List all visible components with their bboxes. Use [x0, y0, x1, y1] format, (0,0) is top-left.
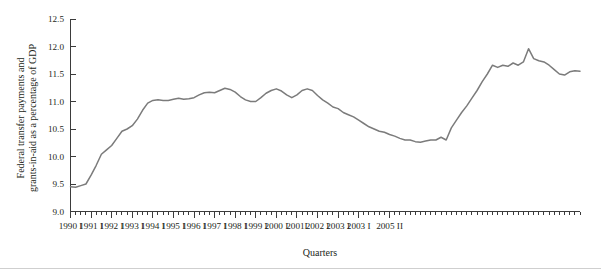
y-axis-tick-labels: 9.09.510.010.511.011.512.012.5: [48, 14, 64, 217]
x-axis-tick-label: 2001I: [286, 221, 307, 231]
x-axis-tick-label: 2000 I: [264, 221, 288, 231]
x-axis-tick-label: 2003 I: [347, 221, 371, 231]
y-axis-tick-label: 10.5: [48, 124, 64, 134]
y-axis-tick-label: 9.0: [53, 207, 65, 217]
x-axis-tick-labels: 1990 I1991 I1992 I1993 I1994 I1995 I1996…: [59, 221, 403, 231]
chart-figure: Federal transfer payments and grants-in-…: [0, 0, 601, 273]
y-axis-title-line1: Federal transfer payments and: [15, 58, 26, 179]
y-axis-tick-label: 10.0: [48, 152, 64, 162]
y-axis-tick-label: 11.5: [48, 69, 64, 79]
series-line-federal-transfer-payments: [71, 49, 581, 188]
y-axis-tick-label: 11.0: [48, 97, 64, 107]
x-axis-tick-marks: [71, 212, 581, 218]
x-axis-tick-label: 2005 II: [376, 221, 403, 231]
line-chart: Federal transfer payments and grants-in-…: [0, 0, 601, 273]
y-axis-tick-label: 12.0: [48, 42, 64, 52]
x-axis-title: Quarters: [303, 247, 338, 258]
y-axis-title-line2: grants-in-aid as a percentage of GDP: [27, 44, 38, 192]
y-axis-tick-label: 12.5: [48, 14, 64, 24]
footer-divider: [0, 268, 601, 269]
y-axis-tick-label: 9.5: [53, 179, 65, 189]
y-axis-tick-marks: [71, 19, 76, 212]
y-axis-title: Federal transfer payments and grants-in-…: [15, 44, 38, 192]
